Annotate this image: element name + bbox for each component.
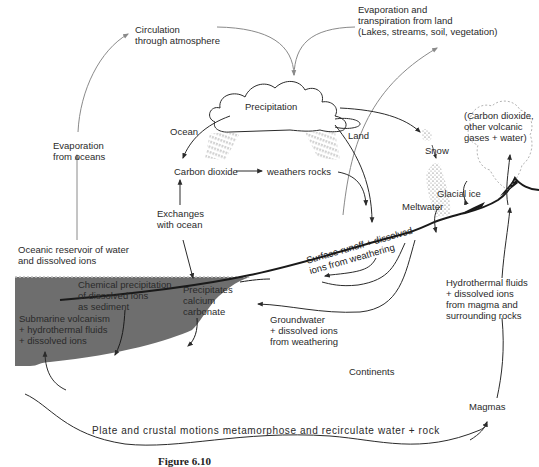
label-land: Land	[348, 130, 369, 141]
label-snow: Snow	[425, 145, 449, 156]
figure-caption: Figure 6.10	[158, 455, 211, 467]
label-hydrothermal-fluids: Hydrothermal fluids + dissolved ions fro…	[446, 277, 528, 321]
arrow-weathers-down	[338, 172, 366, 205]
label-precipitation: Precipitation	[245, 101, 297, 112]
label-exchanges-with-ocean: Exchanges with ocean	[157, 208, 204, 230]
label-circulation: Circulation through atmosphere	[135, 24, 220, 46]
label-weathers-rocks: weathers rocks	[267, 166, 331, 177]
label-plate-motions: Plate and crustal motions metamorphose a…	[92, 425, 440, 436]
label-chemical-precipitation: Chemical precipitation of dissolved ions…	[78, 279, 171, 312]
label-carbon-dioxide: Carbon dioxide	[174, 166, 238, 177]
label-magmas: Magmas	[469, 401, 505, 412]
label-groundwater: Groundwater + dissolved ions from weathe…	[270, 314, 338, 347]
cloud-icon	[205, 81, 360, 160]
label-ocean: Ocean	[170, 126, 198, 137]
arrow-precip-caco3-line	[240, 279, 270, 282]
arrow-land-evap-to-cloud	[294, 27, 355, 75]
arrow-hydrothermal-up	[502, 208, 510, 278]
label-submarine-volcanism: Submarine volcanism + hydrothermal fluid…	[19, 313, 110, 346]
arrow-evap-to-circulation	[78, 34, 128, 132]
label-volcanic-gases: (Carbon dioxide, other volcanic gases + …	[464, 110, 534, 143]
arrow-volcano-to-gases	[507, 155, 510, 205]
label-evaporation-land: Evaporation and transpiration from land …	[358, 4, 497, 37]
arrow-hydrothermal-to-magma	[497, 318, 503, 398]
label-precipitates-caco3: Precipitates calcium carbonate	[183, 284, 233, 317]
arrow-exchanges-to-ocean	[183, 240, 193, 278]
arrow-circulation-to-cloud	[217, 27, 294, 75]
label-glacial-ice: Glacial ice	[437, 188, 481, 199]
label-continents: Continents	[349, 366, 394, 377]
label-meltwater: Meltwater	[402, 201, 443, 212]
label-oceanic-reservoir: Oceanic reservoir of water and dissolved…	[18, 244, 129, 266]
arrow-plate-motions	[25, 394, 487, 445]
snow-cloud-stipple	[422, 129, 432, 141]
label-evaporation-oceans: Evaporation from oceans	[53, 140, 105, 162]
